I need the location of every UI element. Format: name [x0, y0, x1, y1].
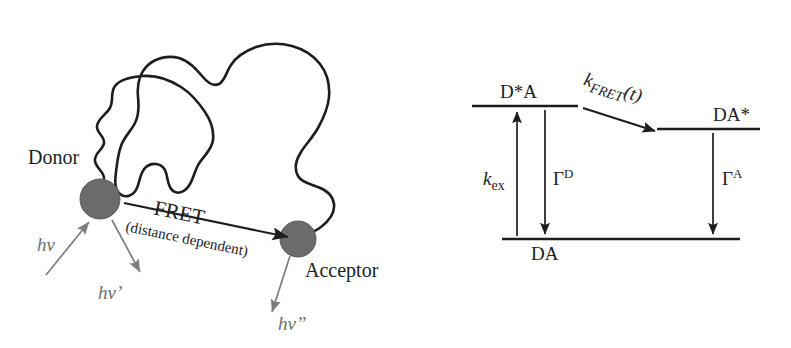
fret-rate-label: kFRET(t) [580, 68, 645, 110]
donor-decay-rate-label: ΓD [553, 166, 573, 189]
fret-transfer-arrow [583, 108, 655, 131]
figure-canvas: Donor Acceptor FRET (distance dependent)… [0, 0, 791, 348]
acceptor-emission-photon-label: hv” [278, 313, 307, 334]
absorption-photon-label: hv [37, 234, 56, 255]
excitation-rate-label: kex [483, 168, 505, 193]
acceptor-chromophore [280, 221, 316, 257]
level-label-excited-acceptor: DA* [713, 104, 750, 125]
donor-emission-photon-label: hv’ [98, 282, 122, 303]
acceptor-emission-arrow [272, 256, 290, 312]
donor-label: Donor [28, 146, 79, 168]
fret-figure: Donor Acceptor FRET (distance dependent)… [0, 0, 791, 348]
level-label-excited-donor: D*A [500, 81, 537, 102]
polymer-chain [95, 44, 334, 240]
level-label-ground: DA [531, 243, 559, 264]
acceptor-decay-rate-label: ΓA [722, 166, 743, 189]
donor-chromophore [80, 179, 120, 219]
acceptor-label: Acceptor [305, 259, 379, 282]
